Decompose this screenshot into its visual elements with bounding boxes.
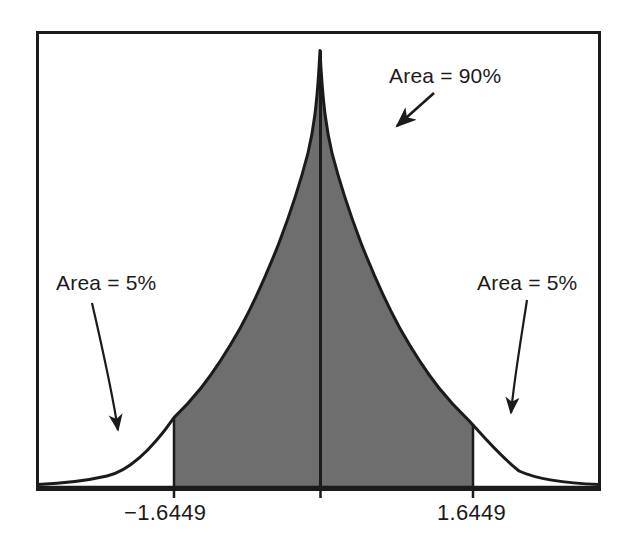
shaded-central-area — [174, 51, 473, 488]
area-5-right-label: Area = 5% — [477, 271, 577, 295]
area-90-arrow — [397, 93, 434, 126]
area-5-left-arrow — [92, 303, 118, 430]
normal-distribution-figure: Area = 90% Area = 5% Area = 5% −1.6449 1… — [0, 0, 629, 558]
area-90-label: Area = 90% — [389, 64, 501, 88]
x-tick-label-negative: −1.6449 — [124, 500, 206, 526]
area-5-right-arrow — [511, 300, 527, 413]
x-tick-label-positive: 1.6449 — [437, 500, 506, 526]
area-5-left-label: Area = 5% — [56, 271, 156, 295]
